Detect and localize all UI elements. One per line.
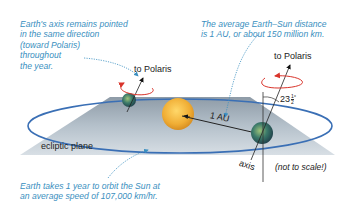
orbit-note-line: Earth takes 1 year to orbit the Sun at [20, 181, 160, 191]
ecliptic-plane-label: ecliptic plane [41, 141, 93, 151]
axis-note: Earth's axis remains pointed in the same… [20, 19, 128, 71]
orbit-note-line: an average speed of 107,000 km/hr. [20, 191, 160, 201]
scale-note: (not to scale!) [275, 162, 327, 172]
tilt-fraction-denominator: 2 [291, 100, 294, 105]
axis-note-line: in the same direction [20, 29, 128, 39]
tilt-label: 2312° [280, 94, 296, 105]
rotation-arrow-left [121, 83, 153, 95]
earth-left [122, 93, 136, 107]
distance-note-line: is 1 AU, or about 150 million km. [201, 29, 327, 39]
distance-note: The average Earth–Sun distance is 1 AU, … [201, 19, 327, 40]
degree-symbol: ° [294, 94, 296, 100]
orbit-note: Earth takes 1 year to orbit the Sun at a… [20, 181, 160, 202]
polaris-label-right: to Polaris [274, 51, 312, 61]
axis-note-line: throughout [20, 50, 128, 60]
distance-note-line: The average Earth–Sun distance [201, 19, 327, 29]
sun [162, 98, 194, 130]
tilt-degrees: 23 [280, 94, 290, 104]
axis-note-line: the year. [20, 61, 128, 71]
axis-note-line: Earth's axis remains pointed [20, 19, 128, 29]
rotation-arrow-right [262, 76, 303, 88]
polaris-label-left: to Polaris [134, 64, 172, 74]
axis-note-line: (toward Polaris) [20, 40, 128, 50]
